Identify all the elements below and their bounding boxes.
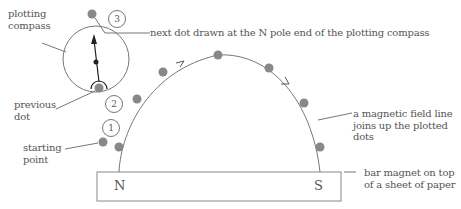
step-3-badge: 3 (108, 10, 126, 28)
label-starting-point: starting point (23, 142, 61, 165)
step-2-badge: 2 (105, 95, 123, 113)
plotted-dot (214, 51, 223, 60)
label-previous-dot: previous dot (14, 99, 56, 122)
plotted-dot (316, 143, 325, 152)
step-1-badge: 1 (102, 119, 120, 137)
plotted-dot (159, 68, 168, 77)
field-line (119, 55, 320, 172)
needle-north-arrow-icon (91, 34, 97, 44)
previous-dot (95, 84, 104, 93)
south-pole-label: S (314, 178, 323, 193)
label-next-dot: next dot drawn at the N pole end of the … (150, 27, 429, 39)
starting-point-dot (99, 138, 108, 147)
label-plotting-compass: plotting compass (8, 8, 50, 31)
needle-pivot (94, 60, 99, 65)
label-bar-magnet: bar magnet on top of a sheet of paper (364, 167, 455, 190)
leader-previous-dot (56, 91, 95, 109)
leader-starting-point (65, 143, 98, 149)
plotted-dot (115, 143, 124, 152)
label-field-line: a magnetic field line joins up the plott… (353, 108, 453, 143)
bar-magnet (97, 172, 341, 201)
leader-field-line (318, 113, 352, 120)
next-dot (88, 10, 97, 19)
arrow-icon (281, 77, 289, 84)
plotted-dot (133, 95, 142, 104)
arrow-icon (176, 61, 184, 67)
plotted-dot (300, 99, 309, 108)
plotted-dot (265, 64, 274, 73)
leader-plotting-compass (42, 43, 66, 52)
north-pole-label: N (114, 178, 125, 193)
